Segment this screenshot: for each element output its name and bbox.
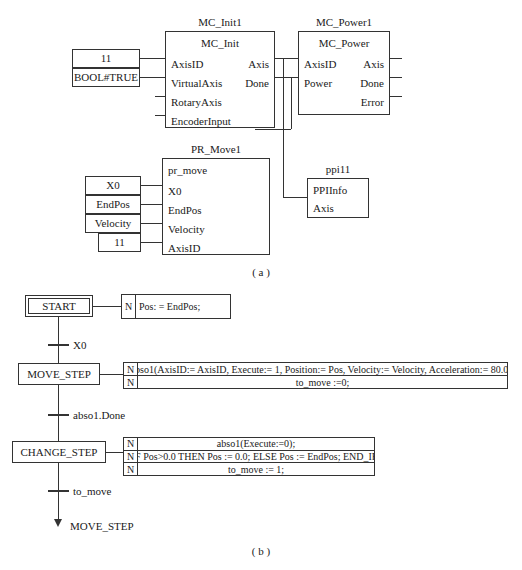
pin-in-axisid: AxisID	[171, 59, 203, 70]
sfc-action-table-move-step: N abso1(AxisID:= AxisID, Execute:= 1, Po…	[123, 362, 508, 389]
literal-init-virtualaxis: BOOL#TRUE	[72, 68, 140, 87]
action-row: N abso1(AxisID:= AxisID, Execute:= 1, Po…	[124, 363, 507, 376]
action-row: N Pos: = EndPos;	[122, 295, 230, 318]
action-qualifier: N	[124, 463, 138, 475]
sfc-step-move-step: MOVE_STEP	[18, 363, 100, 385]
action-qualifier: N	[124, 363, 138, 375]
wire-change-to-action	[106, 452, 123, 453]
action-row: N to_move := 1;	[124, 463, 374, 475]
sfc-action-table-change-step: N abso1(Execute:=0); N IF Pos>0.0 THEN P…	[123, 437, 375, 476]
wire-move-velocity	[141, 223, 162, 224]
transition-bar-to-move	[48, 490, 69, 492]
jump-target-label: MOVE_STEP	[70, 521, 134, 532]
pin-out-done: Done	[245, 78, 269, 89]
wire-power-done-out	[390, 77, 402, 78]
block-type-mc-init: MC_Init	[166, 37, 274, 49]
action-text: to_move :=0;	[138, 376, 507, 388]
wire-power-error-out	[390, 96, 402, 97]
transition-label-to-move: to_move	[73, 486, 112, 497]
action-qualifier: N	[124, 376, 138, 388]
sfc-step-change-step: CHANGE_STEP	[12, 441, 106, 463]
wire-move-x0	[141, 185, 162, 186]
action-row: N abso1(Execute:=0);	[124, 438, 374, 451]
function-block-ppi11: PPIInfo Axis	[307, 178, 369, 218]
literal-move-velocity: Velocity	[85, 214, 141, 233]
block-instance-name-ppi11: ppi11	[307, 163, 369, 175]
transition-bar-abso1-done	[48, 414, 69, 416]
pin-in-move-velocity: Velocity	[168, 224, 205, 235]
wire-done-drop	[291, 77, 292, 129]
pin-in-move-x0: X0	[168, 186, 181, 197]
transition-label-abso1-done: abso1.Done	[73, 410, 125, 421]
wire-axis-to-power-axisid	[275, 58, 298, 59]
block-type-pr-move: pr_move	[168, 165, 207, 176]
pin-in-move-endpos: EndPos	[168, 205, 202, 216]
pin-in-ppi-axis: Axis	[313, 203, 334, 214]
wire-axis-drop-to-ppi	[283, 58, 284, 197]
wire-change-down	[58, 463, 59, 525]
pin-out-power-error: Error	[361, 97, 384, 108]
pin-in-move-axisid: AxisID	[168, 243, 200, 254]
block-type-ppiinfo: PPIInfo	[313, 185, 347, 196]
function-block-mc-init1: MC_Init AxisID VirtualAxis RotaryAxis En…	[165, 31, 275, 128]
function-block-mc-power1: MC_Power AxisID Power Axis Done Error	[298, 31, 390, 115]
figure-container: MC_Init1 MC_Init AxisID VirtualAxis Rota…	[0, 0, 522, 570]
literal-move-axisid: 11	[98, 233, 141, 252]
action-text: abso1(Execute:=0);	[138, 438, 374, 450]
action-row: N IF Pos>0.0 THEN Pos := 0.0; ELSE Pos :…	[124, 451, 374, 464]
pin-out-power-done: Done	[360, 78, 384, 89]
literal-move-x0: X0	[85, 176, 141, 195]
action-text: abso1(AxisID:= AxisID, Execute:= 1, Posi…	[138, 363, 507, 375]
wire-init-virtualaxis	[140, 77, 165, 78]
action-qualifier: N	[122, 295, 136, 318]
function-block-pr-move1: pr_move X0 EndPos Velocity AxisID	[162, 158, 270, 255]
pin-out-power-axis: Axis	[363, 59, 384, 70]
action-text: to_move := 1;	[138, 463, 374, 475]
pin-in-power-axisid: AxisID	[304, 59, 336, 70]
wire-init-axisid	[140, 58, 165, 59]
block-instance-name-mc-power1: MC_Power1	[298, 16, 390, 28]
action-text: IF Pos>0.0 THEN Pos := 0.0; ELSE Pos := …	[138, 451, 374, 463]
wire-done-to-power	[275, 77, 298, 78]
caption-a: ( a )	[0, 266, 522, 278]
transition-label-x0: X0	[73, 340, 86, 351]
sfc-step-start: START	[25, 295, 93, 317]
wire-axis-into-ppi	[283, 197, 307, 198]
pin-in-encoderinput: EncoderInput	[171, 116, 231, 127]
pin-in-virtualaxis: VirtualAxis	[171, 78, 222, 89]
literal-init-axisid: 11	[72, 49, 140, 68]
block-type-mc-power: MC_Power	[299, 37, 389, 49]
pin-in-power: Power	[304, 78, 332, 89]
wire-start-to-action	[93, 306, 121, 307]
literal-move-endpos: EndPos	[85, 195, 141, 214]
wire-power-axis-out	[390, 58, 402, 59]
sfc-action-table-start: N Pos: = EndPos;	[121, 294, 231, 319]
wire-done-feedback	[255, 129, 291, 130]
wire-init-encoderinput-stub	[155, 115, 165, 116]
caption-b: ( b )	[0, 545, 522, 557]
wire-move-to-action	[100, 374, 123, 375]
action-row: N to_move :=0;	[124, 376, 507, 388]
wire-init-rotaryaxis-stub	[155, 96, 165, 97]
action-text: Pos: = EndPos;	[136, 295, 230, 318]
transition-bar-x0	[48, 344, 69, 346]
action-qualifier: N	[124, 438, 138, 450]
block-instance-name-pr-move1: PR_Move1	[162, 143, 270, 155]
block-instance-name-mc-init1: MC_Init1	[165, 16, 275, 28]
wire-move-axisid	[141, 242, 162, 243]
pin-in-rotaryaxis: RotaryAxis	[171, 97, 222, 108]
pin-out-axis: Axis	[248, 59, 269, 70]
wire-move-endpos	[141, 204, 162, 205]
action-qualifier: N	[124, 451, 138, 463]
jump-arrow-icon	[54, 519, 62, 527]
